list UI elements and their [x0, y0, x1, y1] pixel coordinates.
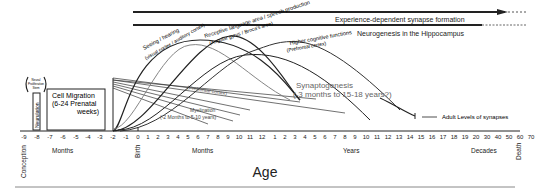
prefrontal-label: (Prefrontal cortex) — [187, 84, 228, 96]
svg-text:Stem: Stem — [32, 86, 40, 90]
svg-text:8: 8 — [216, 134, 220, 140]
svg-text:-7: -7 — [47, 134, 53, 140]
svg-text:20: 20 — [473, 134, 480, 140]
svg-text:Conception: Conception — [20, 145, 28, 178]
svg-text:2: 2 — [283, 134, 287, 140]
svg-text:40: 40 — [495, 134, 502, 140]
cell-migration-box: Cell Migration (6-24 Prenatal weeks) — [47, 89, 105, 130]
svg-text:12: 12 — [259, 134, 266, 140]
svg-text:14: 14 — [407, 134, 414, 140]
svg-text:16: 16 — [429, 134, 436, 140]
svg-text:60: 60 — [517, 134, 524, 140]
svg-text:weeks): weeks) — [76, 108, 99, 116]
svg-text:Months: Months — [52, 147, 74, 154]
svg-text:9: 9 — [226, 134, 230, 140]
svg-text:5: 5 — [186, 134, 190, 140]
svg-text:18: 18 — [451, 134, 458, 140]
svg-text:13: 13 — [396, 134, 403, 140]
svg-text:1: 1 — [146, 134, 150, 140]
svg-text:4: 4 — [303, 134, 307, 140]
svg-text:11: 11 — [374, 134, 381, 140]
svg-text:10: 10 — [363, 134, 370, 140]
svg-text:7: 7 — [333, 134, 337, 140]
svg-text:11: 11 — [247, 134, 254, 140]
svg-text:-9: -9 — [21, 134, 27, 140]
svg-text:3: 3 — [166, 134, 170, 140]
svg-text:Death: Death — [515, 142, 522, 160]
svg-text:-8: -8 — [34, 134, 40, 140]
svg-text:5: 5 — [313, 134, 317, 140]
synaptogenesis-label: Synaptogenesis — [296, 81, 353, 90]
svg-text:6: 6 — [196, 134, 200, 140]
experience-bar: Experience-dependent synapse formation — [133, 9, 526, 24]
svg-text:-1: -1 — [123, 134, 129, 140]
svg-text:Decades: Decades — [471, 147, 497, 154]
svg-text:2: 2 — [156, 134, 160, 140]
axis-ticks: -9 -8 -7 -6 -5 -4 -3 -2 -1 0 1 2 3 4 5 6… — [21, 134, 535, 140]
svg-text:-2: -2 — [110, 134, 116, 140]
svg-text:17: 17 — [440, 134, 447, 140]
svg-text:(6-24 Prenatal: (6-24 Prenatal — [52, 100, 97, 108]
axis-title: Age — [253, 164, 278, 180]
neurulation-box: Neurulation — [33, 93, 40, 130]
svg-text:10: 10 — [236, 134, 243, 140]
svg-text:4: 4 — [176, 134, 180, 140]
svg-text:70: 70 — [528, 134, 535, 140]
svg-text:Birth: Birth — [134, 144, 141, 158]
experience-label: Experience-dependent synapse formation — [335, 16, 465, 24]
svg-text:12: 12 — [385, 134, 392, 140]
svg-text:Cell Migration: Cell Migration — [52, 92, 95, 100]
svg-text:Receptive language area / spee: Receptive language area / speech product… — [203, 0, 310, 39]
neurogenesis-label: Neurogenesis in the Hippocampus — [357, 30, 465, 38]
svg-text:Neurulation: Neurulation — [34, 102, 40, 128]
svg-text:30: 30 — [484, 134, 491, 140]
decline-curve — [380, 98, 415, 116]
svg-text:19: 19 — [462, 134, 469, 140]
svg-text:1: 1 — [273, 134, 277, 140]
svg-text:-5: -5 — [73, 134, 79, 140]
synaptogenesis-range: (-3 months to 15-18 years?) — [293, 90, 392, 99]
svg-text:-6: -6 — [60, 134, 66, 140]
svg-text:7: 7 — [206, 134, 210, 140]
svg-text:6: 6 — [323, 134, 327, 140]
svg-text:-3: -3 — [97, 134, 103, 140]
svg-text:-4: -4 — [85, 134, 91, 140]
svg-text:15: 15 — [418, 134, 425, 140]
svg-text:Years: Years — [343, 147, 360, 154]
svg-text:0: 0 — [136, 134, 140, 140]
brain-development-diagram: Experience-dependent synapse formation N… — [0, 0, 535, 191]
svg-text:(-2 Months to 5-10 years): (-2 Months to 5-10 years) — [160, 114, 216, 120]
curve-labels: Seeing / hearing (visual cortex / audito… — [142, 0, 353, 120]
svg-text:9: 9 — [353, 134, 357, 140]
svg-text:3: 3 — [293, 134, 297, 140]
neural-proliferation: Neural Proliferation Stem — [26, 77, 46, 92]
svg-text:50: 50 — [506, 134, 513, 140]
svg-text:8: 8 — [343, 134, 347, 140]
svg-text:Months: Months — [192, 147, 214, 154]
adult-levels-label: Adult Levels of synapses — [442, 114, 508, 120]
svg-text:Myelination: Myelination — [190, 107, 216, 113]
